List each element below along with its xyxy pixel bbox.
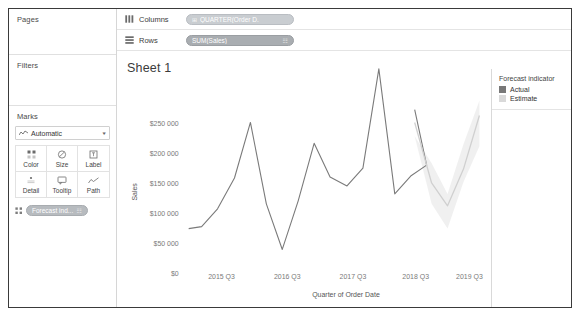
shelf-area: Columns ⊞ QUARTER(Order D. Rows SUM(Sale… <box>117 9 571 53</box>
rows-shelf[interactable]: Rows SUM(Sales) ☷ <box>117 30 571 51</box>
chevron-down-icon: ▾ <box>103 130 106 136</box>
ytick-label: $200 000 <box>150 150 179 157</box>
ytick-label: $50 000 <box>154 240 179 247</box>
legend-item-estimate[interactable]: Estimate <box>499 95 571 102</box>
y-axis-title: Sales <box>131 183 138 201</box>
confidence-band <box>415 101 480 229</box>
label-icon <box>89 150 98 160</box>
size-icon <box>57 150 67 160</box>
pill-sum-sales-text: SUM(Sales) <box>192 37 280 44</box>
ytick-label: $100 000 <box>150 210 179 217</box>
xtick-label: 2015 Q3 <box>208 273 235 281</box>
pill-sum-sales[interactable]: SUM(Sales) ☷ <box>186 35 294 46</box>
marks-tooltip-label: Tooltip <box>53 187 72 194</box>
columns-shelf[interactable]: Columns ⊞ QUARTER(Order D. <box>117 9 571 30</box>
mark-type-dropdown[interactable]: Automatic ▾ <box>15 126 110 140</box>
rows-label: Rows <box>139 36 181 45</box>
forecast-indicator-legend: Forecast indicator Actual Estimate <box>491 69 571 307</box>
filters-panel[interactable]: Filters <box>9 55 116 105</box>
marks-detail-button[interactable]: Detail <box>16 172 47 197</box>
marks-size-button[interactable]: Size <box>47 146 78 172</box>
color-icon <box>27 150 36 160</box>
marks-path-label: Path <box>87 187 100 194</box>
x-axis-title: Quarter of Order Date <box>312 291 380 299</box>
marks-detail-label: Detail <box>23 187 40 194</box>
tableau-worksheet-window: Pages Filters Marks Automatic ▾ <box>8 8 572 308</box>
xtick-label: 2016 Q3 <box>274 273 301 281</box>
legend-item-actual[interactable]: Actual <box>499 86 571 93</box>
mark-type-value: Automatic <box>28 130 103 137</box>
ytick-label: $150 000 <box>150 180 179 187</box>
columns-label: Columns <box>139 15 181 24</box>
line-mark-icon <box>19 130 28 136</box>
pill-quarter-order-date[interactable]: ⊞ QUARTER(Order D. <box>186 14 294 25</box>
pill-quarter-order-date-text: QUARTER(Order D. <box>200 16 288 23</box>
marks-label-button[interactable]: Label <box>78 146 109 172</box>
pill-forecast-indicator[interactable]: Forecast ind... ☷ <box>26 205 88 216</box>
xtick-label: 2019 Q3 <box>456 273 483 281</box>
ytick-label: $0 <box>171 270 179 277</box>
rows-icon <box>125 36 134 44</box>
pill-forecast-indicator-text: Forecast ind... <box>32 207 74 214</box>
pages-label: Pages <box>9 9 116 24</box>
marks-tooltip-button[interactable]: Tooltip <box>47 172 78 197</box>
marks-detail-shelf[interactable]: Forecast ind... ☷ <box>15 205 110 216</box>
path-icon <box>88 176 99 186</box>
grid-icon: ⊞ <box>192 16 197 23</box>
legend-swatch-estimate <box>499 95 506 102</box>
marks-card: Marks Automatic ▾ <box>9 106 116 216</box>
marks-label: Marks <box>9 106 116 121</box>
legend-label-actual: Actual <box>510 86 529 93</box>
marks-color-label: Color <box>23 161 39 168</box>
ytick-label: $250 000 <box>150 120 179 127</box>
legend-title: Forecast indicator <box>499 75 571 82</box>
legend-swatch-actual <box>499 86 506 93</box>
marks-buttons-grid: Color Size <box>15 145 110 198</box>
legend-divider <box>492 109 571 110</box>
pages-panel[interactable]: Pages <box>9 9 116 54</box>
actual-line[interactable] <box>189 69 427 250</box>
legend-label-estimate: Estimate <box>510 95 537 102</box>
tooltip-icon <box>57 176 67 186</box>
pill-menu-icon[interactable]: ☷ <box>77 207 82 214</box>
detail-icon <box>15 207 23 215</box>
xtick-label: 2018 Q3 <box>402 273 429 281</box>
filters-label: Filters <box>9 55 116 70</box>
left-panel: Pages Filters Marks Automatic ▾ <box>9 9 117 307</box>
xtick-label: 2017 Q3 <box>340 273 367 281</box>
pill-menu-icon[interactable]: ☷ <box>283 37 288 44</box>
columns-icon <box>125 15 134 23</box>
marks-path-button[interactable]: Path <box>78 172 109 197</box>
worksheet-view: Sheet 1 $250 000 $200 000 $150 000 $100 … <box>117 53 571 307</box>
marks-size-label: Size <box>56 161 69 168</box>
marks-label-label: Label <box>86 161 102 168</box>
marks-color-button[interactable]: Color <box>16 146 47 172</box>
detail-icon <box>26 176 36 186</box>
